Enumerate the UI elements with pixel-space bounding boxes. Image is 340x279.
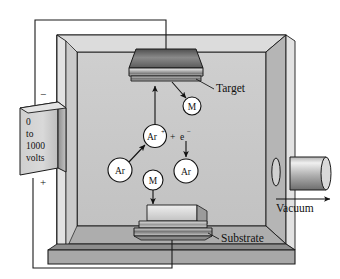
substrate-mid-plate (139, 221, 207, 228)
positive-terminal-sign: + (40, 176, 46, 188)
substrate-label: Substrate (221, 232, 264, 244)
target-body (129, 49, 203, 68)
chamber-left-inner-edge (66, 41, 77, 250)
target-label: Target (216, 82, 246, 95)
chamber-front-right-edge (286, 35, 295, 250)
particle-m-lower: M (143, 170, 163, 190)
particle-ar-ion-label: Ar (147, 132, 158, 142)
vacuum-port-opening (272, 158, 280, 186)
substrate-base-shadow (134, 236, 212, 240)
power-supply-side-face (58, 102, 66, 172)
vacuum-tube-end-cap (321, 157, 331, 190)
power-supply-line-1: 0 (26, 117, 31, 127)
particle-ar-ion: Ar + (144, 125, 167, 148)
particle-ar-neutral-label: Ar (115, 166, 126, 176)
power-supply-line-3: 1000 (26, 141, 45, 151)
electron-label: e (180, 132, 184, 142)
reaction-plus-sign: + (170, 132, 175, 142)
vacuum-label: Vacuum (276, 202, 314, 214)
substrate-base (134, 228, 212, 236)
particle-ar-right: Ar (174, 159, 198, 183)
substrate-top-block (147, 205, 197, 221)
particle-m-upper-label: M (188, 102, 197, 112)
particle-ar-right-label: Ar (181, 167, 192, 177)
power-supply-line-4: volts (26, 153, 45, 163)
electron-charge: − (187, 128, 191, 136)
target-backing-plate (131, 76, 201, 81)
particle-m-lower-label: M (149, 176, 158, 186)
negative-terminal-sign: − (40, 88, 46, 100)
particle-ar-neutral: Ar (108, 158, 132, 182)
target-face (129, 68, 203, 76)
particle-m-upper: M (183, 97, 201, 115)
diagram-canvas: Target Substrate Vacuum 0 to 1000 volts … (0, 0, 340, 279)
sputtering-chamber-diagram: Target Substrate Vacuum 0 to 1000 volts … (0, 0, 340, 279)
power-supply-line-2: to (26, 129, 34, 139)
particle-ar-ion-charge: + (161, 128, 165, 136)
